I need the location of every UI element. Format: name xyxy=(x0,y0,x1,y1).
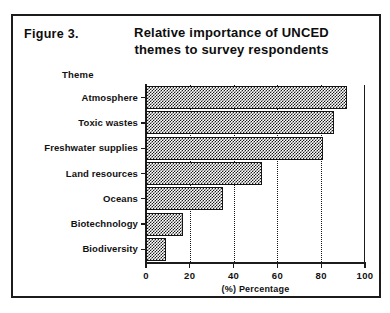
figure-title-line-1: Relative importance of UNCED xyxy=(89,24,374,41)
figure-title-line-2: themes to survey respondents xyxy=(89,41,374,58)
page-title: Relative importance of UNCED themes to s… xyxy=(89,24,374,58)
figure-title-block: Figure 3. Relative importance of UNCED t… xyxy=(13,24,379,66)
figure-number-label: Figure 3. xyxy=(24,27,79,41)
figure-frame: Figure 3. Relative importance of UNCED t… xyxy=(11,14,381,298)
